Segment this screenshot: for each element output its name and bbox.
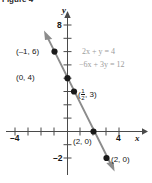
point-neg1-6 — [51, 49, 57, 55]
x-tick-label-4: 4 — [116, 134, 121, 143]
equation-1: 2x + y = 4 — [82, 48, 115, 56]
point-label-2-0: (2, 0) — [73, 138, 92, 146]
x-axis — [6, 128, 148, 136]
graph-figure: Figure 4 — [0, 0, 152, 183]
point-label-neg1-6: (–1, 6) — [16, 48, 39, 56]
x-axis-label: x — [135, 134, 140, 143]
x-tick-label-neg4: –4 — [10, 134, 19, 143]
y-tick-label-neg2: –2 — [53, 154, 62, 163]
equation-2: −6x + 3y = 12 — [79, 61, 125, 69]
point-label-0-4: (0, 4) — [16, 74, 35, 82]
point-0-4 — [64, 75, 70, 81]
y-axis-label: y — [62, 6, 66, 15]
fraction-numerator: 1 — [81, 88, 85, 95]
fraction-one-half: 12 — [81, 88, 85, 102]
fraction-denominator: 2 — [81, 95, 85, 101]
point-3-neg2 — [103, 155, 109, 161]
point-2-0 — [90, 128, 96, 134]
point-label-half-3: (12, 3) — [78, 88, 97, 102]
paren-close: , 3) — [85, 90, 97, 99]
point-label-3-neg2: (2, 0) — [111, 156, 130, 164]
point-half-3 — [71, 88, 77, 94]
y-tick-label-8: 8 — [57, 21, 62, 30]
y-axis — [64, 11, 72, 175]
